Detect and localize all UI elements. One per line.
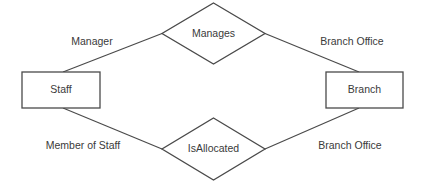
role-label-branch-office-top: Branch Office xyxy=(320,35,384,47)
entity-staff-label: Staff xyxy=(50,83,71,95)
er-diagram-svg: Staff Branch Manages IsAllocated Manager… xyxy=(0,0,425,183)
relationship-manages[interactable]: Manages xyxy=(162,3,265,64)
relationship-isallocated[interactable]: IsAllocated xyxy=(162,118,265,180)
relationship-manages-label: Manages xyxy=(192,27,235,39)
role-label-manager: Manager xyxy=(71,35,113,47)
er-diagram-canvas: Staff Branch Manages IsAllocated Manager… xyxy=(0,0,425,183)
entity-branch[interactable]: Branch xyxy=(326,72,403,108)
entity-staff[interactable]: Staff xyxy=(22,72,100,108)
entity-branch-label: Branch xyxy=(348,83,381,95)
role-label-member-of-staff: Member of Staff xyxy=(46,139,121,151)
role-label-branch-office-bottom: Branch Office xyxy=(318,139,382,151)
relationship-isallocated-label: IsAllocated xyxy=(188,142,240,154)
